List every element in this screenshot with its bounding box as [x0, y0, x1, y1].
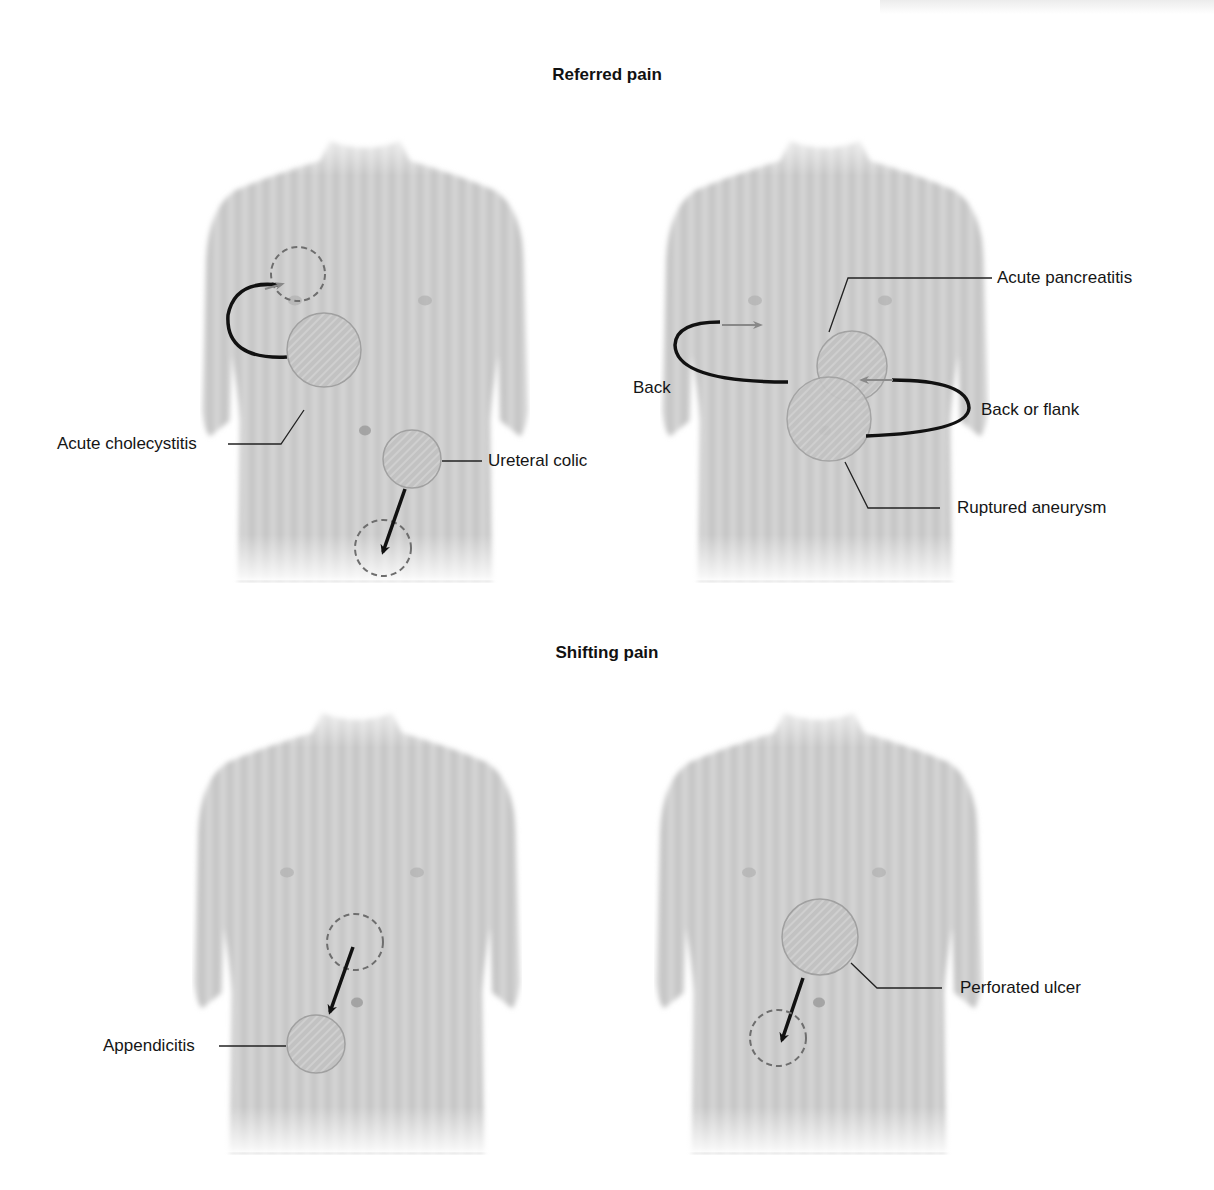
ureter-pain-region	[383, 430, 441, 488]
gallbladder-pain-region	[287, 313, 361, 387]
torso-illustration	[200, 121, 530, 581]
label-perforated-ulcer: Perforated ulcer	[960, 978, 1081, 998]
appendix-pain-region	[287, 1015, 345, 1073]
torso-illustration	[192, 693, 522, 1153]
panel-referred-left	[200, 121, 530, 581]
label-back: Back	[633, 378, 671, 398]
ulcer-pain-region	[782, 899, 858, 975]
panel-shifting-right	[654, 693, 984, 1153]
panel-shifting-left	[192, 693, 522, 1153]
label-acute-cholecystitis: Acute cholecystitis	[57, 434, 197, 454]
label-appendicitis: Appendicitis	[103, 1036, 195, 1056]
label-back-or-flank: Back or flank	[981, 400, 1079, 420]
label-ureteral-colic: Ureteral colic	[488, 451, 587, 471]
label-acute-pancreatitis: Acute pancreatitis	[997, 268, 1132, 288]
diagram-canvas	[0, 0, 1214, 1190]
label-ruptured-aneurysm: Ruptured aneurysm	[957, 498, 1106, 518]
aorta-pain-region	[787, 377, 871, 461]
panel-referred-right	[660, 121, 992, 581]
